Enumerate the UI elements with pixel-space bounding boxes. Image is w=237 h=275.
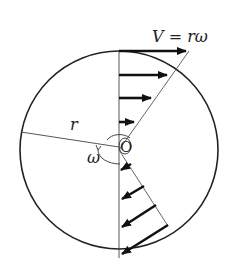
omega-label: ω bbox=[87, 148, 100, 167]
upper-velocity-arrows bbox=[119, 51, 186, 122]
radius-line bbox=[21, 132, 119, 147]
radius-label: r bbox=[70, 115, 79, 134]
upper-velocity-envelope bbox=[119, 51, 189, 150]
velocity-arrow bbox=[122, 186, 144, 199]
disk-diagram: O V = rω r ω bbox=[0, 0, 237, 275]
velocity-arrow bbox=[122, 205, 156, 227]
velocity-equation-label: V = rω bbox=[152, 27, 208, 46]
rotation-arc-icon bbox=[98, 150, 120, 164]
center-label: O bbox=[120, 138, 132, 156]
